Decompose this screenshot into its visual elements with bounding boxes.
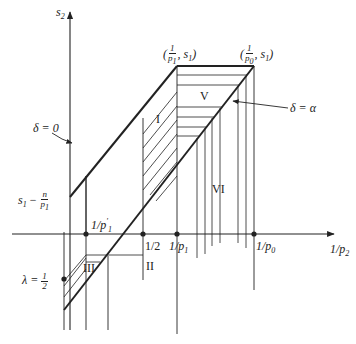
region-label-v: V: [200, 90, 209, 102]
delta-alpha-arrow: [233, 101, 288, 108]
point-half: [140, 231, 145, 236]
point-p1: [174, 231, 179, 236]
point-p0: [251, 231, 256, 236]
lambda-half-label: λ = 12: [22, 272, 48, 291]
tick-label-p0: 1/p0: [256, 240, 275, 255]
corner-label-p0-s1: (1p0, s1): [240, 44, 273, 66]
delta-zero-label: δ = 0: [33, 122, 59, 134]
point-p1-prime: [83, 231, 88, 236]
region-label-i: I: [156, 113, 160, 125]
region-label-vi: VI: [212, 183, 225, 195]
delta-alpha-label: δ = α: [290, 102, 316, 114]
tick-label-p1: 1/p1: [169, 240, 188, 255]
tick-label-p1-prime: 1/p'1: [91, 218, 112, 234]
point-lambda: [61, 276, 66, 281]
region-i-hatch: [143, 92, 177, 201]
region-label-ii: II: [146, 260, 154, 272]
region-vi-verticals: [197, 76, 246, 258]
region-label-iii: III: [83, 262, 95, 274]
tick-label-half: 1/2: [145, 240, 160, 252]
x-axis-label: 1/p2: [330, 243, 349, 258]
y-axis-label: s2: [56, 6, 65, 21]
corner-label-p1-s1: (1p1, s1): [163, 44, 196, 66]
s1-minus-n-over-p1-label: s1 − np1: [18, 190, 50, 212]
